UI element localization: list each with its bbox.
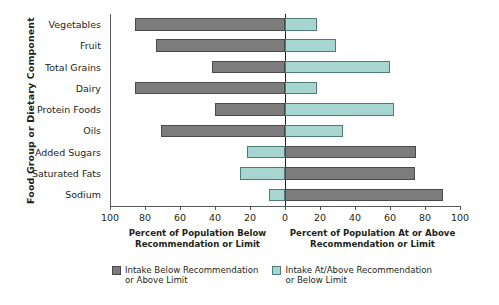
legend-swatch-gray <box>112 266 121 275</box>
bar-segment-left <box>269 189 285 201</box>
bar-segment-left <box>247 146 286 158</box>
x-axis-line <box>110 206 460 207</box>
x-axis-tick-label: 20 <box>305 212 335 223</box>
bar-segment-right <box>285 125 343 137</box>
bar-segment-right <box>285 103 394 115</box>
x-axis-tick <box>110 206 111 210</box>
category-label: Fruit <box>28 35 106 56</box>
legend-swatch-teal <box>272 266 281 275</box>
bar-segment-right <box>285 61 390 73</box>
x-axis-tick-label: 80 <box>410 212 440 223</box>
bar-row <box>110 35 460 56</box>
bar-segment-right <box>285 189 443 201</box>
x-axis-tick-labels: 10080604020020406080100 <box>110 212 460 226</box>
bar-segment-right <box>285 167 415 179</box>
category-label: Dairy <box>28 78 106 99</box>
bar-row <box>110 57 460 78</box>
bar-segment-left <box>212 61 286 73</box>
x-axis-tick-label: 0 <box>270 212 300 223</box>
x-axis-tick <box>215 206 216 210</box>
bar-row <box>110 163 460 184</box>
bar-row <box>110 142 460 163</box>
bidirectional-bar-chart: Food Group or Dietary Component Vegetabl… <box>0 0 499 305</box>
legend-label: Intake Below Recommendation or Above Lim… <box>125 265 258 286</box>
plot-area <box>110 14 460 206</box>
x-axis-tick <box>180 206 181 210</box>
x-axis-tick <box>320 206 321 210</box>
chart-legend: Intake Below Recommendation or Above Lim… <box>112 265 487 286</box>
x-axis-tick-label: 60 <box>165 212 195 223</box>
category-label: Oils <box>28 120 106 141</box>
x-axis-tick-label: 20 <box>235 212 265 223</box>
category-label: Saturated Fats <box>28 163 106 184</box>
bar-segment-left <box>135 82 286 94</box>
x-axis-tick <box>250 206 251 210</box>
bar-row <box>110 78 460 99</box>
x-axis-caption-right: Percent of Population At or Above Recomm… <box>285 228 460 249</box>
bar-segment-right <box>285 82 317 94</box>
bar-segment-right <box>285 18 317 30</box>
x-axis-tick <box>425 206 426 210</box>
x-axis-tick-label: 100 <box>445 212 475 223</box>
x-axis-tick <box>285 206 286 210</box>
category-label: Total Grains <box>28 57 106 78</box>
bar-segment-left <box>215 103 285 115</box>
bar-segment-left <box>135 18 286 30</box>
x-axis-tick <box>355 206 356 210</box>
x-axis-tick-label: 40 <box>200 212 230 223</box>
bar-row <box>110 184 460 205</box>
category-label: Vegetables <box>28 14 106 35</box>
x-axis-tick-label: 60 <box>375 212 405 223</box>
bar-row <box>110 99 460 120</box>
bar-segment-left <box>156 39 286 51</box>
x-axis-tick <box>145 206 146 210</box>
bar-segment-right <box>285 39 336 51</box>
legend-item: Intake Below Recommendation or Above Lim… <box>112 265 258 286</box>
bar-segment-right <box>285 146 416 158</box>
category-label: Sodium <box>28 184 106 205</box>
x-axis-tick-label: 100 <box>95 212 125 223</box>
x-axis-caption-left: Percent of Population Below Recommendati… <box>110 228 285 249</box>
bar-segment-left <box>240 167 286 179</box>
bar-row <box>110 14 460 35</box>
category-label: Added Sugars <box>28 142 106 163</box>
x-axis-tick <box>460 206 461 210</box>
category-label: Protein Foods <box>28 99 106 120</box>
legend-item: Intake At/Above Recommendation or Below … <box>272 265 432 286</box>
x-axis-captions: Percent of Population Below Recommendati… <box>110 228 460 249</box>
category-axis-labels: VegetablesFruitTotal GrainsDairyProtein … <box>28 14 106 206</box>
x-axis-tick <box>390 206 391 210</box>
legend-label: Intake At/Above Recommendation or Below … <box>285 265 432 286</box>
x-axis-tick-label: 80 <box>130 212 160 223</box>
x-axis-tick-label: 40 <box>340 212 370 223</box>
bar-segment-left <box>161 125 285 137</box>
bar-row <box>110 120 460 141</box>
